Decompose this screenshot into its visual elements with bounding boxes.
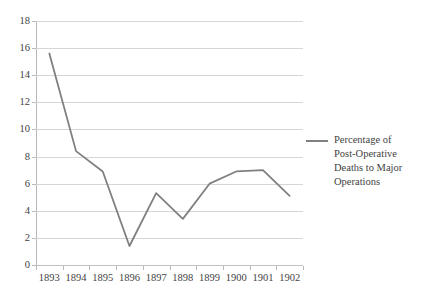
x-axis-label-1895: 1895 bbox=[89, 272, 116, 284]
y-axis-label-12: 12 bbox=[0, 97, 30, 108]
y-axis-label-14: 14 bbox=[0, 70, 30, 81]
legend-label: Percentage of Post-Operative Deaths to M… bbox=[334, 133, 402, 189]
x-axis-label-1897: 1897 bbox=[143, 272, 170, 284]
data-series-line bbox=[36, 21, 303, 265]
x-axis-label-1901: 1901 bbox=[250, 272, 277, 284]
x-axis-label-1900: 1900 bbox=[223, 272, 250, 284]
y-axis-label-10: 10 bbox=[0, 124, 30, 135]
x-axis-tick-0 bbox=[36, 266, 37, 270]
y-axis-label-4: 4 bbox=[0, 206, 30, 217]
y-axis-label-18: 18 bbox=[0, 16, 30, 27]
x-axis-tick-4 bbox=[143, 266, 144, 270]
y-axis-label-0: 0 bbox=[0, 260, 30, 271]
x-axis-label-1902: 1902 bbox=[276, 272, 303, 284]
x-axis-label-1896: 1896 bbox=[116, 272, 143, 284]
x-axis-label-1899: 1899 bbox=[196, 272, 223, 284]
x-axis-tick-3 bbox=[116, 266, 117, 270]
x-axis-label-1893: 1893 bbox=[36, 272, 63, 284]
legend-label-line-1: Percentage of bbox=[334, 134, 391, 145]
x-axis-tick-2 bbox=[89, 266, 90, 270]
x-axis-tick-7 bbox=[223, 266, 224, 270]
plot-area bbox=[36, 21, 303, 265]
x-axis-tick-8 bbox=[250, 266, 251, 270]
legend-label-line-2: Post-Operative bbox=[334, 148, 397, 159]
x-axis-tick-9 bbox=[276, 266, 277, 270]
x-axis-tick-6 bbox=[196, 266, 197, 270]
chart-legend: Percentage of Post-Operative Deaths to M… bbox=[306, 133, 424, 189]
line-chart: 024681012141618 189318941895189618971898… bbox=[0, 0, 426, 297]
legend-label-line-4: Operations bbox=[334, 176, 380, 187]
x-axis-tick-10 bbox=[303, 266, 304, 270]
y-axis-label-8: 8 bbox=[0, 152, 30, 163]
y-axis-label-6: 6 bbox=[0, 179, 30, 190]
x-axis-tick-1 bbox=[63, 266, 64, 270]
y-axis-label-2: 2 bbox=[0, 233, 30, 244]
x-axis-tick-5 bbox=[170, 266, 171, 270]
x-axis-label-1894: 1894 bbox=[63, 272, 90, 284]
y-axis-label-16: 16 bbox=[0, 43, 30, 54]
legend-item: Percentage of Post-Operative Deaths to M… bbox=[306, 133, 424, 189]
x-axis-label-1898: 1898 bbox=[170, 272, 197, 284]
legend-line-swatch bbox=[306, 140, 328, 142]
legend-label-line-3: Deaths to Major bbox=[334, 162, 402, 173]
